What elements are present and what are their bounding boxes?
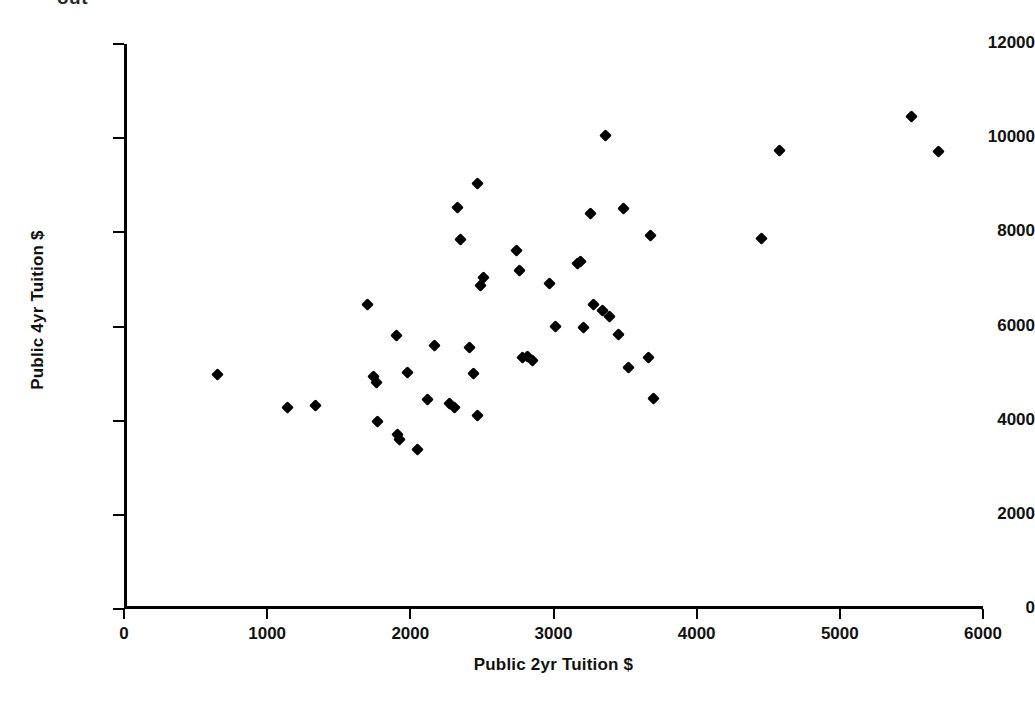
x-axis-tick-label: 6000: [938, 624, 1028, 644]
data-point: [361, 298, 374, 311]
data-point: [577, 322, 590, 335]
data-point: [310, 399, 323, 412]
data-point: [471, 410, 484, 423]
y-axis-tick-label: 10000: [933, 127, 1035, 147]
x-axis-tick: [123, 609, 125, 619]
y-axis-tick-label: 12000: [933, 33, 1035, 53]
clipped-caption-fragment: out: [57, 0, 177, 9]
x-axis-tick: [696, 609, 698, 619]
data-point: [463, 341, 476, 354]
data-point: [549, 320, 562, 333]
data-point: [584, 207, 597, 220]
x-axis-tick-label: 4000: [652, 624, 742, 644]
data-point: [645, 229, 658, 242]
data-point: [428, 339, 441, 352]
data-point: [471, 177, 484, 190]
data-point: [513, 264, 526, 277]
data-point: [454, 233, 467, 246]
y-axis-tick-label: 4000: [933, 410, 1035, 430]
data-point: [599, 129, 612, 142]
data-point: [451, 201, 464, 214]
y-axis-tick-label: 6000: [933, 316, 1035, 336]
data-point: [371, 415, 384, 428]
x-axis-tick-label: 1000: [222, 624, 312, 644]
scatter-plot-figure: out 020004000600080001000012000 01000200…: [0, 0, 1035, 707]
data-point: [510, 244, 523, 257]
data-point: [411, 443, 424, 456]
x-axis-tick-label: 2000: [365, 624, 455, 644]
x-axis-tick: [409, 609, 411, 619]
x-axis-tick: [266, 609, 268, 619]
x-axis-title: Public 2yr Tuition $: [124, 655, 983, 675]
data-point: [401, 366, 414, 379]
data-point: [281, 401, 294, 414]
y-axis-tick-label: 8000: [933, 221, 1035, 241]
y-axis-tick: [113, 514, 124, 516]
data-point: [211, 369, 224, 382]
data-point: [612, 328, 625, 341]
data-point: [543, 277, 556, 290]
y-axis-tick: [113, 326, 124, 328]
x-axis-tick-label: 3000: [509, 624, 599, 644]
data-point: [905, 110, 918, 123]
data-point: [421, 394, 434, 407]
data-point: [622, 361, 635, 374]
plot-area: [124, 44, 983, 609]
x-axis-tick-label: 5000: [795, 624, 885, 644]
y-axis-title: Public 4yr Tuition $: [28, 150, 48, 470]
data-point: [467, 367, 480, 380]
data-point: [773, 145, 786, 158]
data-point: [642, 351, 655, 364]
y-axis-tick: [113, 137, 124, 139]
data-point: [617, 202, 630, 215]
y-axis-tick: [113, 420, 124, 422]
data-point: [390, 330, 403, 343]
y-axis-tick: [113, 231, 124, 233]
y-axis-tick-label: 2000: [933, 504, 1035, 524]
data-point: [448, 402, 461, 415]
x-axis-tick: [839, 609, 841, 619]
y-axis-tick-label: 0: [933, 598, 1035, 618]
x-axis-tick-label: 0: [79, 624, 169, 644]
data-point: [755, 233, 768, 246]
data-point: [647, 392, 660, 405]
y-axis-tick: [113, 43, 124, 45]
x-axis-tick: [553, 609, 555, 619]
